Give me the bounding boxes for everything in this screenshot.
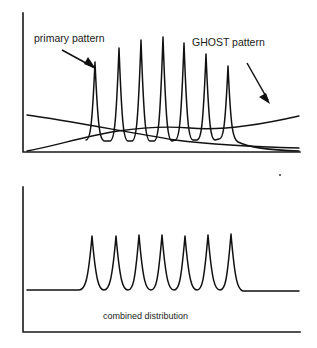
- bottom-panel: combined distribution: [23, 187, 300, 332]
- primary-arrowhead: [84, 57, 96, 69]
- scan-speck: [279, 174, 281, 176]
- primary-pattern-label: primary pattern: [34, 32, 105, 44]
- primary-pattern-arrow: [62, 50, 96, 69]
- top-panel: primary pattern GHOST pattern: [23, 13, 300, 152]
- primary-envelope-curve: [27, 115, 299, 148]
- combined-distribution-label: combined distribution: [103, 311, 188, 321]
- ghost-arrowhead: [259, 93, 270, 104]
- top-panel-peak-comb: [86, 37, 299, 151]
- combined-distribution-curve: [27, 234, 299, 291]
- ghost-pattern-label: GHOST pattern: [192, 36, 265, 48]
- ghost-pattern-arrow: [247, 63, 270, 104]
- figure-canvas: primary pattern GHOST pattern combined d…: [0, 0, 317, 348]
